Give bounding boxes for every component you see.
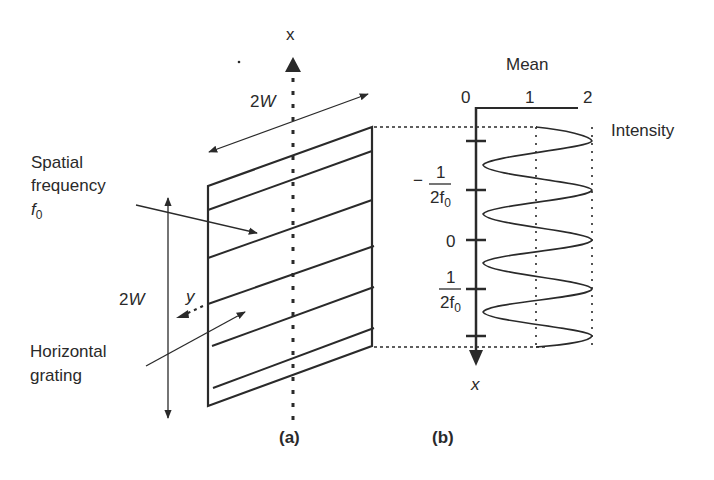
tick-label-zero: 0 — [446, 232, 455, 251]
width-label-top: 2W — [250, 92, 277, 111]
intensity-tick-1: 1 — [525, 88, 534, 107]
grating-label-line1: Horizontal — [30, 342, 107, 361]
y-axis-label: y — [185, 287, 196, 306]
svg-text:2f0: 2f0 — [430, 188, 451, 210]
stray-dot — [238, 61, 241, 64]
grating-diagram: x 2W 2W y Spatial frequency f0 — [0, 0, 714, 480]
intensity-tick-0: 0 — [461, 88, 470, 107]
x-axis-arrow-icon — [285, 57, 301, 72]
panel-b: Mean 0 1 2 x Intensity − 1 2f0 — [413, 55, 675, 447]
grating-line — [208, 151, 372, 210]
tick-label-pos-half-period: 1 2f0 — [439, 268, 461, 315]
panel-b-caption: (b) — [432, 428, 454, 447]
x-axis-label: x — [286, 25, 295, 44]
position-axis-arrow-icon — [469, 350, 483, 366]
width-dimension-arrow — [209, 94, 368, 152]
tick-label-neg-half-period: − 1 2f0 — [413, 163, 451, 210]
grating-label-line2: grating — [30, 366, 82, 385]
grating-line — [208, 200, 372, 258]
spatial-frequency-pointer-arrow — [136, 205, 257, 233]
svg-text:1: 1 — [436, 163, 445, 182]
svg-text:2f0: 2f0 — [440, 293, 461, 315]
grating-lines — [208, 151, 374, 388]
spatial-frequency-label-line2: frequency — [31, 176, 106, 195]
height-label-left: 2W — [119, 290, 146, 309]
grating-outline — [208, 127, 372, 406]
intensity-label: Intensity — [611, 121, 675, 140]
panel-a-caption: (a) — [279, 428, 300, 447]
intensity-tick-2: 2 — [583, 88, 592, 107]
horizontal-grating-annotation: Horizontal grating — [30, 312, 245, 385]
panel-a: x 2W 2W y Spatial frequency f0 — [30, 25, 374, 447]
mean-title: Mean — [506, 55, 549, 74]
spatial-frequency-label-line3: f0 — [31, 200, 43, 222]
spatial-frequency-annotation: Spatial frequency f0 — [31, 153, 257, 233]
svg-text:1: 1 — [446, 268, 455, 287]
position-axis-label: x — [470, 375, 480, 394]
intensity-curve — [483, 127, 592, 347]
y-axis-arrow-icon — [176, 310, 189, 318]
svg-text:−: − — [413, 171, 423, 190]
spatial-frequency-label-line1: Spatial — [31, 153, 83, 172]
y-axis-dotted-line — [186, 306, 203, 314]
